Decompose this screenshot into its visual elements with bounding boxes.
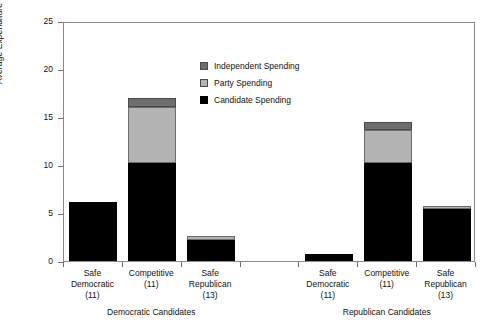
x-tick-line	[240, 262, 241, 267]
x-category-line: Republican	[416, 279, 475, 290]
x-category-line: (13)	[416, 290, 475, 301]
bar-segment-party-spending	[128, 107, 176, 163]
bar-segment-candidate-spending	[364, 163, 412, 261]
party-swatch-icon	[200, 79, 208, 87]
x-category-line: Democratic	[298, 279, 357, 290]
x-tick-line	[357, 262, 358, 267]
y-tick-label: 25	[0, 16, 53, 26]
independent-swatch-icon	[200, 62, 208, 70]
bar-segment-candidate-spending	[187, 240, 235, 261]
bar-segment-candidate-spending	[128, 163, 176, 261]
y-tick-label: 5	[0, 208, 53, 218]
chart-legend: Independent Spending Party Spending Cand…	[200, 59, 300, 110]
bar-0	[69, 202, 117, 261]
candidate-swatch-icon	[200, 96, 208, 104]
y-tick-label: 20	[0, 64, 53, 74]
y-tick-label: 15	[0, 112, 53, 122]
legend-item-candidate: Candidate Spending	[200, 93, 300, 106]
x-category-line: (11)	[298, 290, 357, 301]
x-category-label-5: Competitive(11)	[357, 268, 416, 290]
x-category-line: (13)	[181, 290, 240, 301]
bar-segment-candidate-spending	[423, 209, 471, 261]
legend-label-candidate: Candidate Spending	[214, 95, 291, 105]
x-category-line: Safe	[416, 268, 475, 279]
x-category-line: Competitive	[357, 268, 416, 279]
bar-4	[305, 254, 353, 261]
x-category-line: (11)	[122, 279, 181, 290]
group-label-0: Democratic Candidates	[63, 307, 240, 317]
bar-1	[128, 98, 176, 261]
bar-segment-candidate-spending	[69, 202, 117, 261]
legend-label-independent: Independent Spending	[214, 61, 300, 71]
bar-2	[187, 236, 235, 261]
x-tick-line	[416, 262, 417, 267]
x-category-line: (11)	[63, 290, 122, 301]
x-category-label-1: Competitive(11)	[122, 268, 181, 290]
x-category-line: Democratic	[63, 279, 122, 290]
bar-segment-independent-spending	[128, 98, 176, 108]
plot-area: Independent Spending Party Spending Cand…	[63, 22, 475, 262]
bar-segment-candidate-spending	[305, 254, 353, 261]
x-category-line: (11)	[357, 279, 416, 290]
bar-segment-independent-spending	[364, 122, 412, 131]
x-tick-line	[475, 262, 476, 267]
bar-5	[364, 122, 412, 261]
bar-6	[423, 206, 471, 261]
legend-label-party: Party Spending	[214, 78, 272, 88]
x-category-label-6: SafeRepublican(13)	[416, 268, 475, 301]
bar-segment-party-spending	[423, 206, 471, 209]
expenditure-bar-chart: Average Expenditure ($ Millions) 0510152…	[0, 0, 500, 336]
x-tick-line	[122, 262, 123, 267]
group-label-1: Republican Candidates	[298, 307, 475, 317]
x-category-line: Competitive	[122, 268, 181, 279]
y-tick-label: 0	[0, 256, 53, 266]
x-category-line: Safe	[63, 268, 122, 279]
bar-segment-party-spending	[364, 130, 412, 163]
x-tick-line	[298, 262, 299, 267]
legend-item-independent: Independent Spending	[200, 59, 300, 72]
legend-item-party: Party Spending	[200, 76, 300, 89]
bar-segment-party-spending	[187, 236, 235, 240]
x-category-line: Safe	[298, 268, 357, 279]
x-category-label-4: SafeDemocratic(11)	[298, 268, 357, 301]
x-tick-line	[181, 262, 182, 267]
x-category-line: Safe	[181, 268, 240, 279]
x-category-line: Republican	[181, 279, 240, 290]
x-tick-line	[63, 262, 64, 267]
y-tick-label: 10	[0, 160, 53, 170]
x-category-label-2: SafeRepublican(13)	[181, 268, 240, 301]
x-category-label-0: SafeDemocratic(11)	[63, 268, 122, 301]
